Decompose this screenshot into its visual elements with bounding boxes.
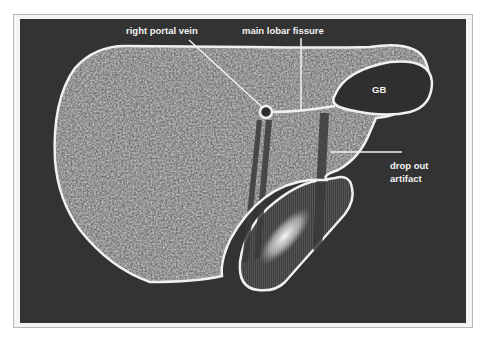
label-gallbladder: GB	[372, 84, 386, 95]
liver-diagram: right portal vein main lobar fissure GB …	[0, 0, 486, 341]
label-main-lobar-fissure: main lobar fissure	[242, 25, 324, 36]
label-right-portal-vein: right portal vein	[126, 25, 198, 36]
label-drop-out-artifact-2: artifact	[390, 173, 423, 184]
label-drop-out-artifact-1: drop out	[390, 160, 429, 171]
right-portal-vein	[260, 106, 272, 118]
